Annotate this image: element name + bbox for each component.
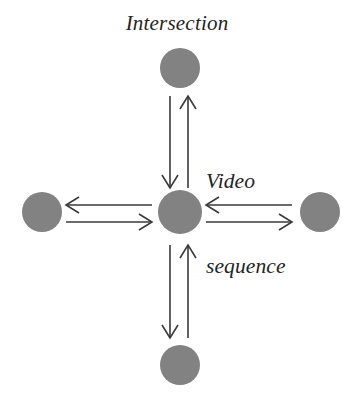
intersection-node-center [158,190,202,234]
video-sequence-line-1: Video [206,167,286,195]
arrow-west-to-center-right [66,214,152,230]
diagram-title: Intersection [0,13,354,34]
diagram-canvas [0,0,354,400]
arrow-center-to-west-left [66,197,152,213]
arrow-center-to-south-down [162,245,178,338]
intersection-node-north [160,48,200,88]
intersection-node-west [22,192,62,232]
intersection-diagram: Intersection Video sequence [0,0,354,400]
arrow-center-to-north-down [162,96,178,188]
arrow-south-to-center-up [180,245,196,338]
video-sequence-annotation: Video sequence [206,110,286,337]
intersection-node-east [300,192,340,232]
video-sequence-line-2: sequence [206,252,286,280]
arrow-north-to-center-up [180,96,196,188]
intersection-node-south [160,345,200,385]
node-layer [22,48,340,385]
